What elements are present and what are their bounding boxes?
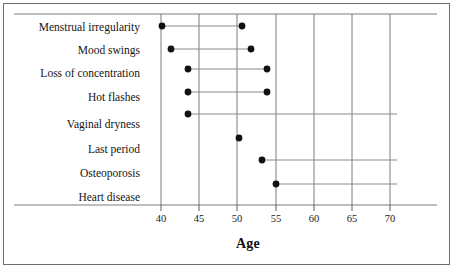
range-end-marker xyxy=(239,23,246,30)
range-vaginal-dryness xyxy=(185,111,397,118)
range-end-marker xyxy=(264,89,271,96)
range-start-marker xyxy=(259,157,266,164)
x-tick-label-50: 50 xyxy=(232,214,243,225)
range-osteoporosis xyxy=(259,157,397,164)
range-start-marker xyxy=(185,66,192,73)
plot-area xyxy=(0,0,454,270)
range-mood-swings xyxy=(168,46,255,53)
x-axis-ticks xyxy=(161,205,390,211)
x-tick-label-40: 40 xyxy=(156,214,167,225)
range-start-marker xyxy=(273,181,280,188)
range-heart-disease xyxy=(273,181,397,188)
range-start-marker xyxy=(185,111,192,118)
range-series xyxy=(159,23,397,188)
range-start-marker xyxy=(236,135,243,142)
range-loss-of-concentration xyxy=(185,66,271,73)
gridlines xyxy=(161,14,390,205)
x-tick-label-70: 70 xyxy=(385,214,396,225)
range-start-marker xyxy=(185,89,192,96)
x-tick-label-45: 45 xyxy=(194,214,205,225)
x-tick-label-60: 60 xyxy=(309,214,320,225)
range-end-marker xyxy=(264,66,271,73)
chart-figure: Menstrual irregularity Mood swings Loss … xyxy=(0,0,454,270)
x-tick-label-65: 65 xyxy=(347,214,358,225)
x-tick-label-55: 55 xyxy=(271,214,282,225)
range-hot-flashes xyxy=(185,89,271,96)
x-axis-title: Age xyxy=(236,236,260,252)
range-last-period xyxy=(236,135,243,142)
range-menstrual-irregularity xyxy=(159,23,246,30)
range-start-marker xyxy=(168,46,175,53)
range-end-marker xyxy=(248,46,255,53)
range-start-marker xyxy=(159,23,166,30)
